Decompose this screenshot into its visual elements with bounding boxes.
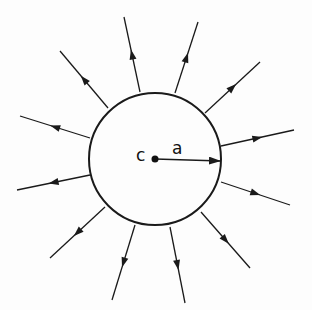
arrowhead-icon bbox=[173, 259, 182, 270]
radius-arrow bbox=[155, 159, 221, 161]
arrowhead-icon bbox=[252, 134, 263, 143]
arrowhead-icon bbox=[49, 122, 61, 132]
radius-label: a bbox=[172, 138, 182, 158]
center-point bbox=[152, 156, 159, 163]
radial-field-diagram: c a bbox=[0, 0, 312, 310]
arrowhead-icon bbox=[250, 189, 262, 199]
center-label: c bbox=[136, 145, 145, 165]
arrowhead-icon bbox=[48, 178, 59, 187]
arrowhead-icon bbox=[119, 257, 129, 269]
arrowhead-icon bbox=[182, 52, 192, 64]
arrowhead-icon bbox=[128, 49, 137, 60]
diagram-canvas: c a bbox=[0, 0, 312, 310]
